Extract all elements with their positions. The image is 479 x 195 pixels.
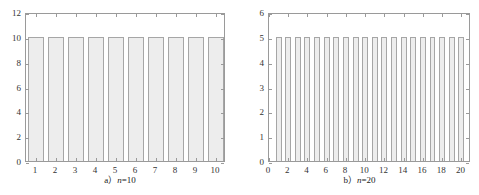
x-axis-tick [136, 158, 137, 161]
caption-b: b）n=20 [240, 173, 479, 186]
y-axis-tick-right [466, 89, 469, 90]
x-axis-tick [216, 158, 217, 161]
y-axis-tick-label: 8 [0, 58, 21, 68]
x-axis-tick-top [156, 14, 157, 17]
bar [362, 37, 368, 161]
bar-series-a [26, 14, 224, 161]
figure-two-bar-charts: 024681012 12345678910 a）n=10 0123456 024… [0, 0, 479, 195]
y-axis-tick [269, 89, 272, 90]
caption-a-value: =10 [122, 175, 136, 185]
bar [391, 37, 397, 161]
y-axis-tick-right [466, 163, 469, 164]
y-axis-tick-right [221, 89, 224, 90]
bar [439, 37, 445, 161]
y-axis-tick-label: 1 [240, 132, 264, 142]
x-axis-tick [76, 158, 77, 161]
x-axis-tick-top [384, 14, 385, 17]
x-axis-tick-top [365, 14, 366, 17]
bar [128, 37, 144, 161]
x-axis-tick [346, 158, 347, 161]
caption-b-paren: ） [348, 175, 357, 185]
x-axis-tick-top [307, 14, 308, 17]
x-axis-tick-top [176, 14, 177, 17]
y-axis-tick-label: 5 [240, 33, 264, 43]
bar [458, 37, 464, 161]
caption-a: a）n=10 [0, 173, 240, 186]
y-axis-tick-right [221, 64, 224, 65]
bar [372, 37, 378, 161]
caption-a-paren: ） [108, 175, 117, 185]
y-axis-tick-right [221, 138, 224, 139]
y-axis-tick [26, 89, 29, 90]
x-axis-tick-top [56, 14, 57, 17]
x-axis-tick [269, 158, 270, 161]
x-axis-tick [423, 158, 424, 161]
bar [295, 37, 301, 161]
x-axis-tick [36, 158, 37, 161]
y-axis-tick [26, 113, 29, 114]
x-axis-tick [404, 158, 405, 161]
x-axis-tick-top [116, 14, 117, 17]
bar [108, 37, 124, 161]
y-axis-tick-right [221, 163, 224, 164]
bar [208, 37, 224, 161]
y-axis-tick-right [221, 14, 224, 15]
y-axis-tick [26, 64, 29, 65]
bar [449, 37, 455, 161]
x-axis-tick [288, 158, 289, 161]
bar [343, 37, 349, 161]
x-axis-tick-top [327, 14, 328, 17]
caption-b-value: =20 [361, 175, 375, 185]
y-axis-tick-label: 4 [0, 107, 21, 117]
x-axis-tick [156, 158, 157, 161]
chart-panel-b: 0123456 02468101214161820 b）n=20 [240, 0, 479, 195]
y-axis-tick-right [466, 113, 469, 114]
y-axis-tick-label: 6 [0, 83, 21, 93]
x-axis-tick [327, 158, 328, 161]
y-axis-tick [269, 163, 272, 164]
y-axis-tick-right [221, 113, 224, 114]
x-axis-tick-top [196, 14, 197, 17]
x-axis-tick-top [76, 14, 77, 17]
x-axis-tick-top [136, 14, 137, 17]
bar [28, 37, 44, 161]
y-axis-tick [26, 163, 29, 164]
x-axis-tick-top [404, 14, 405, 17]
y-axis-tick-label: 2 [240, 107, 264, 117]
y-axis-tick-right [466, 138, 469, 139]
bar [88, 37, 104, 161]
x-axis-tick [116, 158, 117, 161]
y-axis-tick-label: 0 [0, 157, 21, 167]
x-axis-tick-top [216, 14, 217, 17]
y-axis-tick-label: 3 [240, 83, 264, 93]
x-axis-tick [196, 158, 197, 161]
x-axis-tick [365, 158, 366, 161]
x-axis-tick [442, 158, 443, 161]
x-axis-tick-top [461, 14, 462, 17]
y-axis-tick [269, 14, 272, 15]
bar [188, 37, 204, 161]
y-axis-tick-right [221, 39, 224, 40]
x-axis-tick-top [96, 14, 97, 17]
bar [314, 37, 320, 161]
bar [353, 37, 359, 161]
x-axis-tick [307, 158, 308, 161]
bar [276, 37, 282, 161]
bar [324, 37, 330, 161]
y-axis-tick-label: 6 [240, 8, 264, 18]
bar [430, 37, 436, 161]
bar [410, 37, 416, 161]
x-axis-tick [56, 158, 57, 161]
y-axis-tick-label: 0 [240, 157, 264, 167]
y-axis-tick [269, 113, 272, 114]
y-axis-tick-label: 4 [240, 58, 264, 68]
y-axis-tick-right [466, 14, 469, 15]
bar [148, 37, 164, 161]
y-axis-tick [26, 14, 29, 15]
y-axis-tick [26, 39, 29, 40]
plot-area-b [268, 13, 470, 162]
x-axis-tick-top [346, 14, 347, 17]
y-axis-tick-label: 12 [0, 8, 21, 18]
y-axis-tick [269, 64, 272, 65]
x-axis-tick-top [288, 14, 289, 17]
